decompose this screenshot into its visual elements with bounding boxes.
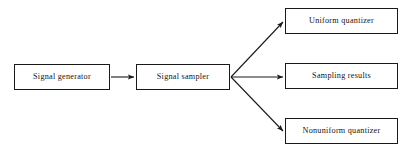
- diagram-canvas: Signal generator Signal sampler Uniform …: [0, 0, 419, 159]
- node-sampling-results-label: Sampling results: [312, 72, 371, 80]
- edge-sampler-to-nonuniform-quantizer: [231, 77, 283, 131]
- node-signal-generator: Signal generator: [14, 64, 110, 90]
- node-nonuniform-quantizer: Nonuniform quantizer: [285, 118, 398, 144]
- node-sampling-results: Sampling results: [285, 63, 398, 89]
- node-signal-generator-label: Signal generator: [33, 73, 91, 81]
- node-nonuniform-quantizer-label: Nonuniform quantizer: [303, 127, 381, 135]
- node-signal-sampler: Signal sampler: [136, 64, 230, 90]
- node-uniform-quantizer-label: Uniform quantizer: [309, 17, 374, 25]
- node-signal-sampler-label: Signal sampler: [157, 73, 209, 81]
- node-uniform-quantizer: Uniform quantizer: [285, 8, 398, 34]
- edge-sampler-to-uniform-quantizer: [231, 22, 283, 77]
